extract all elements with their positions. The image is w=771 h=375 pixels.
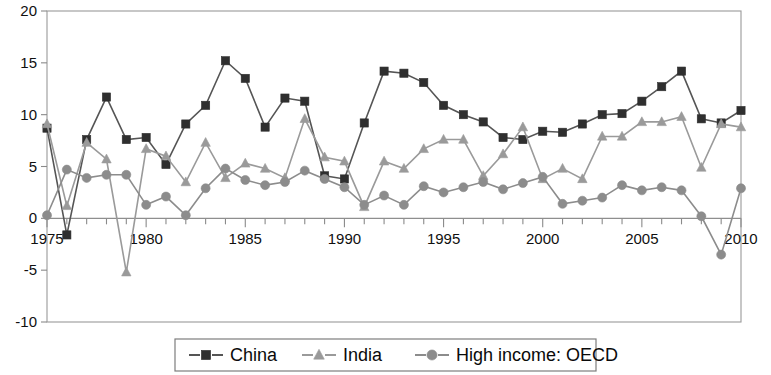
data-point-china (360, 119, 368, 127)
data-point-high-income-oecd (82, 173, 91, 182)
data-point-high-income-oecd (62, 165, 71, 174)
data-point-high-income-oecd (122, 170, 131, 179)
growth-rate-line-chart: 20151050-5-10 19751980198519901995200020… (0, 0, 771, 375)
data-point-china (142, 133, 150, 141)
data-point-china (340, 175, 348, 183)
y-tick-label: -5 (24, 261, 37, 278)
data-point-high-income-oecd (181, 211, 190, 220)
chart-figure: 20151050-5-10 19751980198519901995200020… (0, 0, 771, 375)
data-point-china (439, 101, 447, 109)
data-point-high-income-oecd (320, 174, 329, 183)
data-point-high-income-oecd (161, 192, 170, 201)
data-point-china (261, 123, 269, 131)
data-point-high-income-oecd (280, 178, 289, 187)
data-point-china (539, 127, 547, 135)
data-point-china (479, 118, 487, 126)
data-point-high-income-oecd (439, 188, 448, 197)
y-tick-label: -10 (15, 313, 37, 330)
data-point-china (459, 111, 467, 119)
data-point-china (221, 57, 229, 65)
data-point-high-income-oecd (558, 199, 567, 208)
data-point-high-income-oecd (479, 178, 488, 187)
data-point-high-income-oecd (736, 184, 745, 193)
data-point-china (122, 135, 130, 143)
data-point-high-income-oecd (657, 183, 666, 192)
data-point-high-income-oecd (261, 181, 270, 190)
data-point-high-income-oecd (637, 186, 646, 195)
data-point-high-income-oecd (618, 181, 627, 190)
data-point-high-income-oecd (42, 211, 51, 220)
x-tick-label: 1995 (427, 230, 460, 247)
data-point-high-income-oecd (399, 200, 408, 209)
data-point-high-income-oecd (102, 170, 111, 179)
data-point-china (677, 67, 685, 75)
data-point-china (737, 106, 745, 114)
data-point-china (63, 231, 71, 239)
data-point-high-income-oecd (717, 250, 726, 259)
data-point-high-income-oecd (201, 184, 210, 193)
data-point-china (638, 97, 646, 105)
data-point-china (301, 97, 309, 105)
data-point-high-income-oecd (459, 183, 468, 192)
data-point-high-income-oecd (598, 193, 607, 202)
data-point-china (658, 83, 666, 91)
data-point-china (281, 94, 289, 102)
legend-square-icon (201, 350, 210, 359)
data-point-china (499, 133, 507, 141)
data-point-china (558, 128, 566, 136)
data-point-china (420, 78, 428, 86)
data-point-high-income-oecd (578, 196, 587, 205)
x-tick-label: 1980 (129, 230, 162, 247)
legend-label: China (230, 345, 278, 365)
data-point-china (697, 115, 705, 123)
data-point-high-income-oecd (360, 200, 369, 209)
data-point-china (618, 110, 626, 118)
y-tick-label: 0 (29, 209, 37, 226)
data-point-high-income-oecd (518, 179, 527, 188)
data-point-high-income-oecd (142, 200, 151, 209)
data-point-high-income-oecd (221, 164, 230, 173)
y-tick-label: 20 (20, 2, 37, 19)
data-point-high-income-oecd (677, 186, 686, 195)
legend-label: India (343, 345, 383, 365)
x-tick-label: 1990 (328, 230, 361, 247)
data-point-high-income-oecd (241, 175, 250, 184)
x-tick-label: 2010 (724, 230, 757, 247)
x-tick-label: 2000 (526, 230, 559, 247)
data-point-high-income-oecd (380, 191, 389, 200)
legend-circle-icon (427, 350, 437, 360)
data-point-high-income-oecd (697, 212, 706, 221)
data-point-china (202, 101, 210, 109)
data-point-china (182, 120, 190, 128)
data-point-high-income-oecd (300, 166, 309, 175)
x-tick-label: 1985 (229, 230, 262, 247)
data-point-high-income-oecd (538, 172, 547, 181)
data-point-high-income-oecd (499, 185, 508, 194)
legend-label: High income: OECD (456, 345, 618, 365)
data-point-high-income-oecd (340, 183, 349, 192)
data-point-china (400, 69, 408, 77)
data-point-china (162, 160, 170, 168)
data-point-china (102, 93, 110, 101)
data-point-china (380, 67, 388, 75)
y-tick-label: 15 (20, 54, 37, 71)
data-point-china (578, 120, 586, 128)
y-tick-label: 5 (29, 158, 37, 175)
data-point-china (598, 111, 606, 119)
data-point-high-income-oecd (419, 182, 428, 191)
data-point-china (241, 74, 249, 82)
y-tick-label: 10 (20, 106, 37, 123)
chart-legend: ChinaIndiaHigh income: OECD (175, 339, 618, 371)
x-tick-label: 2005 (625, 230, 658, 247)
x-tick-label: 1975 (30, 230, 63, 247)
